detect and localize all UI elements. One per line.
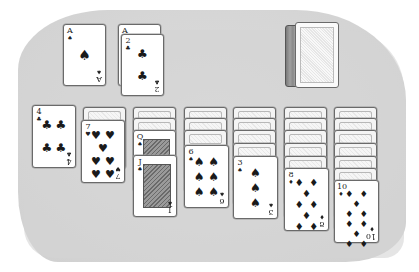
diamond-icon: ♦	[309, 221, 318, 232]
card-corner: 4♣	[65, 151, 73, 165]
card-corner: 8♦	[318, 214, 326, 228]
stock-pile[interactable]	[285, 22, 341, 90]
heart-icon: ♥	[105, 129, 115, 142]
spade-icon: ♠	[250, 196, 261, 210]
foundation-1-top-card[interactable]: A♠ ♠ A♠	[63, 24, 106, 86]
card-corner: 2♣	[153, 79, 161, 93]
tableau-1-top-card[interactable]: 4♣ ♣ ♣ ♣ ♣ 4♣	[32, 105, 76, 168]
card-pips: ♣ ♣	[129, 43, 156, 87]
solitaire-table: A♠ ♠ A♠ A♣ 2♣ ♣ ♣ 2♣ 4♣ ♣ ♣ ♣ ♣ 4♣ 7♥ ♥	[0, 0, 419, 272]
heart-icon: ♥	[98, 142, 108, 155]
diamond-icon: ♦	[360, 209, 368, 219]
club-icon: ♣	[56, 118, 67, 132]
spade-icon: ♠	[78, 47, 91, 63]
diamond-icon: ♦	[360, 219, 368, 229]
diamond-icon: ♦	[309, 199, 318, 210]
spade-icon: ♠	[194, 185, 205, 199]
club-icon: ♣	[137, 47, 148, 61]
tableau-2-top-card[interactable]: 7♥ ♥ ♥ ♥ ♥ ♥ ♥ ♥ 7♥	[81, 120, 125, 183]
card-pips: ♣ ♣ ♣ ♣	[40, 114, 68, 159]
stock-top-card-back[interactable]	[295, 22, 339, 88]
tableau-4-top-card[interactable]: 6♠ ♠ ♠ ♠ ♠ ♠ ♠ 6♠	[184, 145, 229, 208]
card-corner: J♠	[166, 200, 174, 214]
diamond-icon: ♦	[360, 189, 368, 199]
diamond-icon: ♦	[302, 210, 311, 221]
tableau-3-top-card[interactable]: J♠ J♠	[133, 155, 177, 217]
card-corner: 3♠	[267, 202, 275, 216]
card-corner: 10♦	[368, 226, 376, 240]
spade-icon: ♠	[194, 155, 205, 169]
spade-icon: ♠	[208, 170, 219, 184]
tableau-5-top-card[interactable]: 3♠ ♠ ♠ ♠ 3♠	[233, 156, 278, 219]
foundation-2-top-card[interactable]: 2♣ ♣ ♣ 2♣	[121, 34, 164, 96]
diamond-icon: ♦	[302, 188, 311, 199]
diamond-icon: ♦	[295, 177, 304, 188]
diamond-icon: ♦	[295, 221, 304, 232]
card-pips: ♠ ♠ ♠ ♠ ♠ ♠	[192, 154, 221, 199]
spade-icon: ♠	[194, 170, 205, 184]
card-pips: ♠ ♠ ♠	[241, 165, 270, 210]
tableau-6-top-card[interactable]: 8♦ ♦ ♦ ♦ ♦ ♦ ♦ ♦ ♦ 8♦	[284, 168, 329, 231]
diamond-icon: ♦	[345, 209, 353, 219]
club-icon: ♣	[137, 69, 148, 83]
diamond-icon: ♦	[295, 199, 304, 210]
diamond-icon: ♦	[352, 229, 360, 239]
card-corner: 7♥	[114, 166, 122, 180]
heart-icon: ♥	[91, 168, 101, 181]
card-pips: ♦ ♦ ♦ ♦ ♦ ♦ ♦ ♦ ♦ ♦	[342, 189, 371, 234]
heart-icon: ♥	[91, 155, 101, 168]
diamond-icon: ♦	[352, 199, 360, 209]
heart-icon: ♥	[91, 129, 101, 142]
club-icon: ♣	[42, 141, 53, 155]
spade-icon: ♠	[208, 155, 219, 169]
spade-icon: ♠	[250, 181, 261, 195]
card-pips: ♠	[71, 33, 98, 77]
card-pips: ♦ ♦ ♦ ♦ ♦ ♦ ♦ ♦	[292, 177, 321, 222]
diamond-icon: ♦	[309, 177, 318, 188]
tableau-7-top-card[interactable]: 10♦ ♦ ♦ ♦ ♦ ♦ ♦ ♦ ♦ ♦ ♦ 10♦	[334, 180, 379, 243]
club-icon: ♣	[42, 118, 53, 132]
diamond-icon: ♦	[345, 219, 353, 229]
diamond-icon: ♦	[345, 189, 353, 199]
card-pips: ♥ ♥ ♥ ♥ ♥ ♥ ♥	[89, 129, 117, 174]
card-corner: A♠	[95, 69, 103, 83]
diamond-icon: ♦	[345, 239, 353, 249]
card-corner: 6♠	[218, 191, 226, 205]
spade-icon: ♠	[250, 166, 261, 180]
